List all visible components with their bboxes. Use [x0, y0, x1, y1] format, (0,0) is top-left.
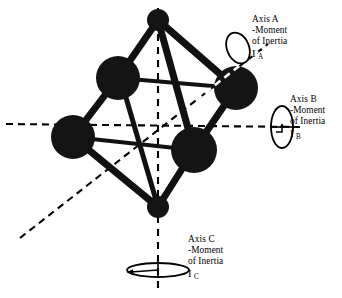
axis-b-label-line3: of Inertia: [290, 116, 325, 127]
axis-c-symbol: IC: [188, 268, 223, 283]
axis-b-line: [6, 124, 300, 127]
axis-c-label-line3: of Inertia: [188, 256, 223, 267]
axis-c-label: Axis C -Moment of Inertia IC: [188, 234, 223, 283]
molecule-axes-diagram: [0, 0, 342, 298]
axis-b-label: Axis B -Moment of Inertia IB: [290, 94, 325, 143]
axis-b-label-line1: Axis B: [290, 94, 325, 105]
axis-a-symbol-main: I: [252, 48, 256, 59]
axis-a-label-line2: -Moment: [252, 25, 287, 36]
axis-a-symbol-subscript: A: [258, 53, 263, 61]
axis-a-label-line1: Axis A: [252, 14, 287, 25]
atom-equatorial-front: [171, 127, 217, 173]
axis-a-rotation-ellipse-icon: [222, 29, 254, 67]
axis-b-symbol: IB: [290, 128, 325, 143]
atom-apex-top: [147, 9, 169, 31]
axis-a-label: Axis A -Moment of Inertia IA: [252, 14, 287, 63]
axis-c-label-line1: Axis C: [188, 234, 223, 245]
moment-of-inertia-figure: Axis A -Moment of Inertia IA Axis B -Mom…: [0, 0, 342, 298]
axis-b-label-line2: -Moment: [290, 105, 325, 116]
axis-b-symbol-main: I: [290, 128, 294, 139]
atom-equatorial-upper-right: [214, 66, 258, 110]
atom-apex-bottom: [147, 196, 169, 218]
axis-c-label-line2: -Moment: [188, 245, 223, 256]
bonds-group: [73, 20, 236, 207]
axis-c-symbol-subscript: C: [194, 273, 199, 281]
atom-equatorial-lower-left: [51, 115, 95, 159]
axis-b-symbol-subscript: B: [296, 133, 301, 141]
atom-equatorial-upper-left: [96, 56, 140, 100]
axis-a-label-line3: of Inertia: [252, 36, 287, 47]
axis-c-symbol-main: I: [188, 268, 192, 279]
axis-a-symbol: IA: [252, 48, 287, 63]
axis-c-rotation-arrow-icon: [131, 270, 158, 272]
